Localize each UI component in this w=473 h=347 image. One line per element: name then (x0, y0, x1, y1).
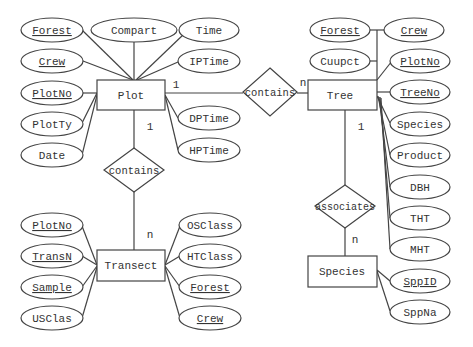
svg-text:USClas: USClas (32, 313, 72, 325)
svg-text:MHT: MHT (410, 244, 430, 256)
svg-text:Transect: Transect (105, 260, 158, 272)
svg-text:Compart: Compart (111, 25, 157, 37)
attr-plot-dptime: DPTime (178, 106, 240, 130)
svg-text:DPTime: DPTime (189, 113, 229, 125)
cardinality-tree-species-n: n (352, 234, 359, 246)
cardinality-tree-species-1: 1 (358, 121, 365, 133)
attr-plot-plotno: PlotNo (21, 81, 83, 105)
svg-text:Cuupct: Cuupct (320, 56, 360, 68)
entity-plot: Plot (97, 80, 165, 110)
svg-text:Plot: Plot (118, 90, 144, 102)
er-diagram: Forest Compart Time Crew IPTime PlotNo P… (0, 0, 473, 347)
attr-plot-crew: Crew (21, 49, 83, 73)
svg-text:PlotNo: PlotNo (400, 56, 440, 68)
svg-text:HTClass: HTClass (187, 251, 233, 263)
svg-text:DBH: DBH (410, 182, 430, 194)
svg-text:Time: Time (196, 25, 222, 37)
svg-text:Product: Product (397, 150, 443, 162)
svg-text:TreeNo: TreeNo (400, 87, 440, 99)
attr-tree-cuupct: Cuupct (310, 49, 370, 73)
attr-transect-sample: Sample (21, 275, 83, 299)
attr-plot-hptime: HPTime (178, 138, 240, 162)
entity-transect: Transect (97, 250, 165, 281)
svg-text:Tree: Tree (327, 90, 353, 102)
attr-plot-plotty: PlotTy (21, 112, 83, 136)
svg-text:Forest: Forest (320, 25, 360, 37)
svg-text:Crew: Crew (401, 25, 428, 37)
attr-transect-crew: Crew (179, 306, 241, 330)
attr-species-sppna: SppNa (390, 300, 450, 324)
attr-tree-dbh: DBH (390, 175, 450, 199)
svg-text:Sample: Sample (32, 282, 72, 294)
attr-transect-usclas: USClas (21, 306, 83, 330)
attr-tree-forest: Forest (310, 18, 370, 42)
entity-tree: Tree (308, 80, 377, 110)
attr-transect-forest: Forest (179, 275, 241, 299)
attr-transect-transn: TransN (21, 244, 83, 268)
attr-tree-crew: Crew (384, 18, 444, 42)
attr-tree-treeno: TreeNo (390, 80, 450, 104)
svg-text:Forest: Forest (32, 25, 72, 37)
svg-text:PlotTy: PlotTy (32, 119, 72, 131)
attr-transect-htclass: HTClass (179, 244, 241, 268)
svg-text:TransN: TransN (32, 251, 72, 263)
attr-transect-plotno: PlotNo (21, 213, 83, 237)
svg-text:IPTime: IPTime (189, 56, 229, 68)
attr-plot-date: Date (21, 143, 83, 167)
svg-text:Species: Species (397, 119, 443, 131)
attr-plot-iptime: IPTime (178, 49, 240, 73)
svg-text:PlotNo: PlotNo (32, 220, 72, 232)
attr-tree-plotno: PlotNo (390, 49, 450, 73)
svg-text:contains: contains (245, 87, 295, 99)
svg-text:Species: Species (319, 266, 365, 278)
relationship-tree-species-associates: associates (315, 185, 375, 228)
attr-tree-species: Species (390, 112, 450, 136)
attr-plot-forest: Forest (21, 18, 83, 42)
svg-text:Forest: Forest (190, 282, 230, 294)
svg-text:Date: Date (39, 150, 65, 162)
attr-tree-mht: MHT (390, 237, 450, 261)
cardinality-plot-transect-1: 1 (147, 121, 154, 133)
cardinality-plot-tree-n: n (300, 77, 307, 89)
relationship-plot-tree-contains: contains (243, 68, 297, 116)
svg-text:contains: contains (109, 165, 159, 177)
svg-text:THT: THT (410, 213, 430, 225)
svg-text:PlotNo: PlotNo (32, 88, 72, 100)
svg-text:associates: associates (315, 202, 375, 213)
attr-species-sppid: SppID (390, 269, 450, 293)
svg-text:OSClass: OSClass (187, 220, 233, 232)
cardinality-plot-tree-1: 1 (173, 79, 180, 91)
svg-text:SppID: SppID (403, 276, 436, 288)
svg-text:Crew: Crew (39, 56, 66, 68)
attr-transect-osclass: OSClass (179, 213, 241, 237)
attr-tree-product: Product (390, 143, 450, 167)
cardinality-plot-transect-n: n (147, 229, 154, 241)
entity-species: Species (308, 256, 377, 287)
attr-plot-time: Time (179, 18, 239, 42)
attr-plot-compart: Compart (91, 18, 177, 42)
svg-text:HPTime: HPTime (189, 145, 229, 157)
relationship-plot-transect-contains: contains (104, 148, 164, 192)
attr-tree-tht: THT (390, 206, 450, 230)
svg-text:SppNa: SppNa (403, 307, 436, 319)
svg-text:Crew: Crew (197, 313, 224, 325)
